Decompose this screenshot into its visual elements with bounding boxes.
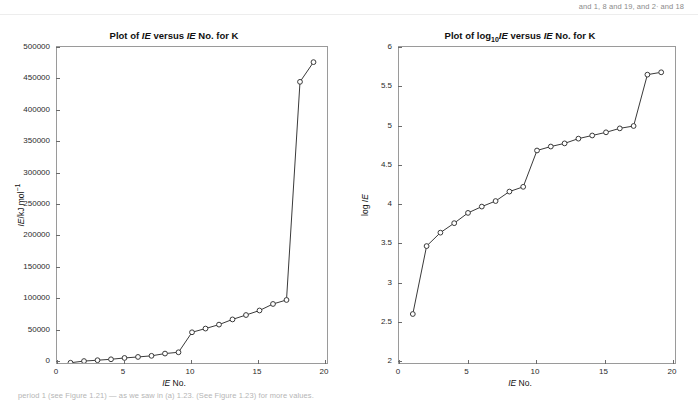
y-tick-label: 150000 — [4, 261, 50, 270]
y-tick — [398, 165, 402, 166]
x-tick — [605, 360, 606, 364]
data-point — [631, 124, 636, 129]
x-tick-label: 20 — [668, 367, 677, 376]
y-tick — [398, 47, 402, 48]
data-point — [604, 130, 609, 135]
y-tick-label: 450000 — [4, 73, 50, 82]
y-tick — [398, 361, 402, 362]
y-tick — [398, 243, 402, 244]
y-tick-label: 300000 — [4, 167, 50, 176]
x-tick — [325, 360, 326, 364]
data-point — [230, 317, 235, 322]
data-point — [452, 221, 457, 226]
x-tick-label: 15 — [599, 367, 608, 376]
chart-panel-ie: Plot of IE versus IE No. for K IE No. IE… — [4, 22, 344, 392]
chart-title-logie-sub: 10 — [491, 36, 499, 43]
y-tick — [56, 78, 60, 79]
y-tick-label: 3.5 — [348, 238, 392, 247]
y-tick-label: 250000 — [4, 199, 50, 208]
y-tick — [56, 330, 60, 331]
x-tick-label: 5 — [121, 367, 125, 376]
y-tick — [398, 126, 402, 127]
data-point — [576, 136, 581, 141]
data-point — [271, 302, 276, 307]
data-point — [493, 199, 498, 204]
y-tick — [56, 235, 60, 236]
data-point — [298, 79, 303, 84]
data-point — [479, 204, 484, 209]
series-ie — [57, 47, 327, 363]
x-tick — [673, 360, 674, 364]
x-tick — [258, 360, 259, 364]
x-tick — [124, 360, 125, 364]
x-tick-label: 10 — [186, 367, 195, 376]
chart-title-logie-it1: IE — [499, 30, 508, 41]
data-point — [203, 326, 208, 331]
chart-title-ie-pre: Plot of — [110, 30, 142, 41]
xaxis-title-ie-it: IE — [162, 378, 170, 388]
bottom-note: period 1 (see Figure 1.21) — as we saw i… — [18, 391, 314, 400]
y-tick — [56, 173, 60, 174]
chart-title-ie-mid: versus — [151, 30, 187, 41]
x-tick-label: 20 — [320, 367, 329, 376]
data-point — [521, 184, 526, 189]
data-point — [257, 308, 262, 313]
y-tick-label: 4.5 — [348, 159, 392, 168]
data-point — [284, 298, 289, 303]
yaxis-title-ie-it: IE — [16, 218, 26, 226]
y-tick — [56, 267, 60, 268]
y-tick — [56, 204, 60, 205]
data-point — [548, 144, 553, 149]
figure-page: and 1, 8 and 19, and 2∙ and 18 Plot of I… — [0, 0, 698, 402]
chart-title-logie-pre: Plot of log — [445, 30, 491, 41]
data-point — [163, 351, 168, 356]
data-point — [507, 189, 512, 194]
chart-title-logie: Plot of log10IE versus IE No. for K — [348, 30, 692, 43]
y-tick-label: 5.5 — [348, 81, 392, 90]
y-tick-label: 50000 — [4, 324, 50, 333]
data-point — [95, 358, 100, 363]
data-point — [424, 244, 429, 249]
data-point — [590, 133, 595, 138]
y-tick-label: 0 — [4, 356, 50, 365]
y-tick-label: 6 — [348, 42, 392, 51]
data-point — [68, 360, 73, 363]
chart-title-ie-post: No. for K — [196, 30, 239, 41]
xaxis-title-logie-post: No. — [516, 378, 532, 388]
x-tick — [536, 360, 537, 364]
top-divider — [0, 14, 698, 15]
y-tick-label: 500000 — [4, 42, 50, 51]
chart-title-ie-it2: IE — [187, 30, 196, 41]
chart-title-ie-it1: IE — [142, 30, 151, 41]
xaxis-title-ie: IE No. — [162, 378, 186, 388]
plot-area-ie — [56, 46, 328, 364]
x-tick-label: 5 — [464, 367, 468, 376]
y-tick — [56, 47, 60, 48]
x-tick-label: 0 — [54, 367, 58, 376]
data-point — [311, 60, 316, 65]
y-tick-label: 3 — [348, 277, 392, 286]
y-tick — [56, 298, 60, 299]
y-tick-label: 5 — [348, 120, 392, 129]
data-point — [136, 355, 141, 360]
y-tick — [398, 322, 402, 323]
x-tick-label: 15 — [253, 367, 262, 376]
y-tick-label: 4 — [348, 199, 392, 208]
x-tick — [468, 360, 469, 364]
data-point — [109, 357, 114, 362]
data-point — [466, 211, 471, 216]
x-tick-label: 10 — [531, 367, 540, 376]
data-point — [190, 330, 195, 335]
data-point — [176, 350, 181, 355]
y-tick-label: 100000 — [4, 293, 50, 302]
xaxis-title-ie-post: No. — [170, 378, 186, 388]
series-logie — [399, 47, 675, 363]
y-tick — [398, 86, 402, 87]
data-point — [410, 312, 415, 317]
xaxis-title-logie-it: IE — [508, 378, 516, 388]
y-tick — [398, 204, 402, 205]
series-polyline — [71, 62, 314, 363]
chart-title-logie-post: No. for K — [553, 30, 596, 41]
y-tick-label: 2.5 — [348, 316, 392, 325]
series-polyline — [413, 72, 661, 314]
